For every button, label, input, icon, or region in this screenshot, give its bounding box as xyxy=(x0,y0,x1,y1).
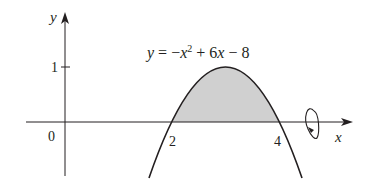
x-tick-label-2: 2 xyxy=(169,134,176,149)
equation-label: y = −x2 + 6x − 8 xyxy=(145,43,249,62)
rotation-about-x-axis-icon xyxy=(306,109,319,139)
y-axis-label: y xyxy=(48,9,57,25)
x-tick-label-4: 4 xyxy=(274,134,281,149)
parabola-figure: y 1 0 2 4 x y = −x2 + 6x − 8 xyxy=(0,0,367,189)
y-tick-label-1: 1 xyxy=(51,60,58,75)
origin-label: 0 xyxy=(48,129,55,144)
x-axis-label: x xyxy=(334,129,342,145)
